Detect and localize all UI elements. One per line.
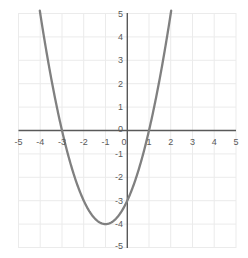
x-tick-label-neg1: -1 [101, 138, 109, 147]
x-tick-label-neg3: -3 [58, 138, 66, 147]
x-tick-label-2: 2 [168, 138, 173, 147]
x-tick-label-neg2: -2 [80, 138, 88, 147]
x-tick-label-5: 5 [233, 138, 238, 147]
x-tick-label-4: 4 [212, 138, 217, 147]
y-tick-label-5: 5 [112, 9, 123, 18]
y-tick-label-3: 3 [112, 56, 123, 65]
y-tick-label-neg2: -2 [110, 173, 123, 182]
y-tick-label-2: 2 [112, 79, 123, 88]
graph-plot-area [0, 0, 248, 258]
x-tick-label-neg5: -5 [14, 138, 22, 147]
y-tick-label-zero: 0 [112, 124, 123, 133]
x-tick-label-3: 3 [190, 138, 195, 147]
x-tick-label-1: 1 [146, 138, 151, 147]
coordinate-graph-figure: -5 -4 -3 -2 -1 0 1 2 3 4 5 5 4 3 2 1 0 -… [0, 0, 248, 258]
x-tick-label-zero: 0 [121, 138, 126, 147]
x-tick-label-neg4: -4 [36, 138, 44, 147]
y-tick-label-neg3: -3 [110, 196, 123, 205]
y-tick-label-1: 1 [112, 103, 123, 112]
y-tick-label-neg1: -1 [110, 149, 123, 158]
y-tick-label-4: 4 [112, 32, 123, 41]
y-tick-label-neg4: -4 [110, 220, 123, 229]
y-tick-label-neg5: -5 [110, 241, 123, 250]
